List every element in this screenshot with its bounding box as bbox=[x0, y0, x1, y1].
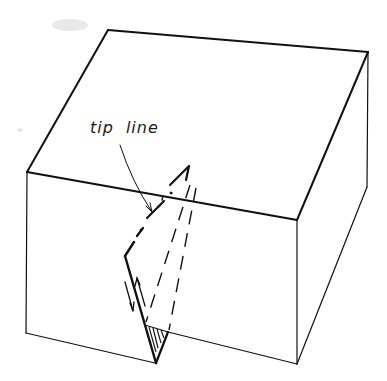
block-top-face bbox=[27, 30, 368, 220]
block-right-face bbox=[297, 52, 368, 364]
label-word-line: line bbox=[126, 118, 159, 137]
scan-smudge bbox=[17, 19, 88, 132]
crack-hidden-edges bbox=[146, 185, 196, 330]
block-drawing bbox=[0, 0, 387, 381]
leader-arrow bbox=[120, 145, 152, 212]
block-front-face bbox=[26, 172, 297, 364]
crack-block-diagram: tipline bbox=[0, 0, 387, 381]
crack-front-edge bbox=[125, 242, 168, 363]
label-word-tip: tip bbox=[90, 118, 114, 137]
tip-line-label: tipline bbox=[90, 118, 159, 137]
